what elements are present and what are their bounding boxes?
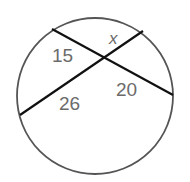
segment-label-x: x	[108, 29, 118, 48]
chord-b	[20, 31, 143, 115]
segment-label-26: 26	[59, 93, 80, 114]
segment-label-20: 20	[116, 79, 137, 100]
segment-label-15: 15	[52, 45, 73, 66]
circle	[17, 18, 173, 174]
chords-diagram: 15 x 20 26	[0, 0, 190, 182]
